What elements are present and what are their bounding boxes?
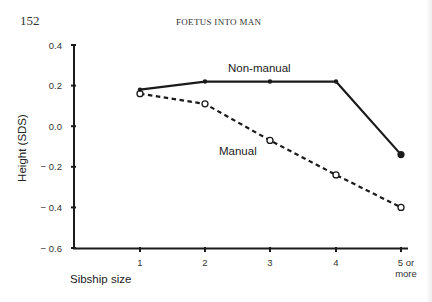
data-point-manual — [267, 137, 273, 143]
y-tick-label: − 0.6 — [41, 243, 62, 254]
y-axis-title: Height (SDS) — [16, 114, 28, 182]
series-label-manual: Manual — [219, 145, 257, 157]
data-point-non-manual — [203, 79, 207, 83]
series-label-non-manual: Non-manual — [228, 62, 291, 74]
data-point-manual — [333, 172, 339, 178]
line-chart: 0.40.20.0− 0.2− 0.4− 0.6 12345 ormore He… — [0, 0, 432, 302]
x-tick-label: 1 — [137, 257, 142, 268]
data-point-non-manual — [138, 87, 142, 91]
y-tick-label: − 0.2 — [41, 161, 62, 172]
x-axis-title: Sibship size — [70, 273, 131, 285]
y-tick-label: − 0.4 — [41, 202, 62, 213]
x-tick-label: more — [395, 268, 417, 279]
y-tick-label: 0.0 — [49, 121, 62, 132]
data-point-non-manual — [397, 151, 404, 158]
data-point-non-manual — [334, 79, 338, 83]
page-edge-shadow — [426, 0, 432, 302]
y-ticks: 0.40.20.0− 0.2− 0.4− 0.6 — [41, 40, 76, 254]
x-tick-label: 2 — [202, 257, 207, 268]
series-layer — [137, 79, 405, 210]
y-tick-label: 0.4 — [49, 40, 62, 51]
x-tick-label: 5 or — [398, 257, 414, 268]
data-point-manual — [202, 101, 208, 107]
data-point-manual — [398, 204, 404, 210]
x-tick-label: 3 — [267, 257, 272, 268]
y-tick-label: 0.2 — [49, 80, 62, 91]
x-ticks: 12345 ormore — [137, 247, 416, 279]
data-point-non-manual — [268, 79, 272, 83]
x-tick-label: 4 — [333, 257, 338, 268]
